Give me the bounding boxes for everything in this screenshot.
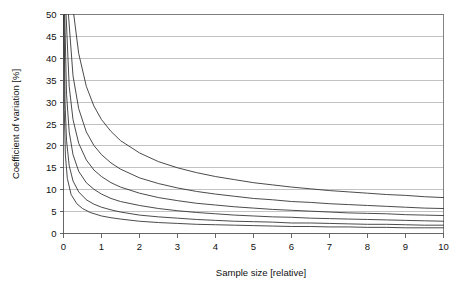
y-tick-label-40: 40 <box>46 53 57 64</box>
x-tick-label-5: 5 <box>251 241 256 252</box>
y-tick-label-10: 10 <box>46 184 57 195</box>
x-tick-label-10: 10 <box>438 241 449 252</box>
x-tick-label-4: 4 <box>213 241 218 252</box>
x-tick-label-9: 9 <box>403 241 408 252</box>
y-tick-label-30: 30 <box>46 97 57 108</box>
y-tick-label-35: 35 <box>46 75 57 86</box>
x-tick-label-2: 2 <box>137 241 142 252</box>
y-tick-label-0: 0 <box>51 228 56 239</box>
y-tick-label-50: 50 <box>46 9 57 20</box>
y-tick-label-25: 25 <box>46 119 57 130</box>
x-tick-label-7: 7 <box>327 241 332 252</box>
y-axis-title: Coefficient of variation [%] <box>10 69 21 179</box>
chart-container: 012345678910 05101520253035404550 Sample… <box>0 0 459 284</box>
x-tick-label-3: 3 <box>175 241 180 252</box>
x-tick-label-1: 1 <box>99 241 104 252</box>
y-tick-label-20: 20 <box>46 140 57 151</box>
chart-background <box>0 0 459 284</box>
y-tick-label-45: 45 <box>46 31 57 42</box>
x-tick-label-0: 0 <box>61 241 66 252</box>
x-axis-title: Sample size [relative] <box>216 267 306 278</box>
y-tick-label-15: 15 <box>46 162 57 173</box>
coefficient-of-variation-chart: 012345678910 05101520253035404550 Sample… <box>0 0 459 284</box>
y-tick-label-5: 5 <box>51 206 56 217</box>
x-tick-label-6: 6 <box>289 241 294 252</box>
x-tick-label-8: 8 <box>365 241 370 252</box>
